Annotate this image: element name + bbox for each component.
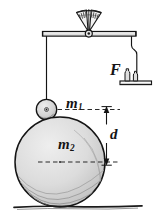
beam-pivot xyxy=(85,30,92,37)
physics-diagram: m1 m2 d F xyxy=(0,0,160,219)
calibration-weights xyxy=(125,69,138,81)
label-m2-base: m xyxy=(58,136,70,152)
weight-two xyxy=(133,71,137,81)
label-distance-d: d xyxy=(110,127,118,142)
label-force-F: F xyxy=(110,62,121,78)
ground-stroke-main xyxy=(14,206,142,208)
small-sphere-center-dot xyxy=(46,109,48,111)
label-m1-subscript: 1 xyxy=(78,102,83,112)
weight-one xyxy=(125,69,130,81)
label-m2-subscript: 2 xyxy=(70,143,75,153)
large-mass-sphere xyxy=(15,117,105,211)
small-mass-sphere xyxy=(36,99,56,119)
pivot-center-dot xyxy=(88,32,91,35)
pan-platform xyxy=(120,81,152,85)
label-mass-m2: m2 xyxy=(58,137,75,152)
ground-line xyxy=(14,206,142,210)
weight-pan xyxy=(120,81,152,85)
label-mass-m1: m1 xyxy=(66,96,83,111)
ground-stroke-shadow xyxy=(17,208,138,209)
fan-scale-gauge xyxy=(77,9,102,31)
label-m1-base: m xyxy=(66,95,78,111)
gauge-sector-left xyxy=(77,10,89,31)
